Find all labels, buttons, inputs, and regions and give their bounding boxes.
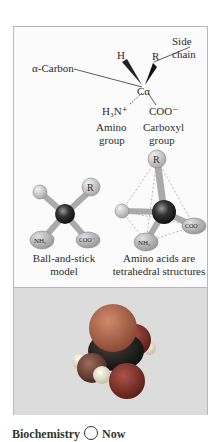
ball-stick-caption: Ball-and-stick model	[24, 252, 104, 278]
amino-group-label-1: Amino	[96, 121, 127, 133]
carbon-atom	[55, 204, 75, 224]
h-wedge	[122, 59, 142, 85]
space-filling-model	[14, 288, 207, 414]
alpha-carbon-label: α-Carbon	[32, 62, 74, 74]
h-atom	[33, 185, 47, 199]
h-label: H	[117, 49, 125, 61]
tetrahedral-model: R COO⁻ NH₃	[115, 150, 206, 251]
r-label: R	[152, 50, 160, 62]
tetra-h-atom	[115, 204, 129, 218]
oxygen-atom-front	[109, 363, 145, 399]
r-atom-label: R	[87, 182, 94, 193]
tetra-r-label: R	[153, 154, 160, 165]
tetra-carbon-atom	[152, 200, 176, 224]
figure-frame: α-Carbon H R Cα Side chain H₃N⁺ COO⁻ Ami…	[13, 26, 208, 415]
structural-formula: α-Carbon H R Cα Side chain H₃N⁺ COO⁻ Ami…	[14, 27, 209, 147]
diagram-panel: α-Carbon H R Cα Side chain H₃N⁺ COO⁻ Ami…	[14, 27, 207, 287]
tetrahedral-caption: Amino acids are tetrahedral structures	[109, 252, 209, 278]
nh3-label: NH₃	[34, 237, 47, 245]
r-wedge	[145, 63, 157, 85]
footer-brand: Biochemistry Now	[12, 426, 125, 442]
tetra-coo-label: COO⁻	[185, 223, 201, 229]
amino-formula: H₃N⁺	[102, 105, 128, 117]
carboxyl-formula: COO⁻	[149, 105, 178, 117]
side-chain-atom	[89, 304, 137, 352]
models-illustration: R NH₃ COO⁻	[14, 142, 209, 262]
ball-and-stick-model: R NH₃ COO⁻	[30, 178, 100, 249]
now-logo-icon	[84, 426, 98, 440]
coo-label: COO⁻	[79, 237, 95, 243]
tetra-nh3-label: NH₃	[138, 239, 151, 247]
side-chain-label-1: Side	[172, 35, 192, 47]
carboxyl-group-label-1: Carboxyl	[143, 121, 184, 133]
alpha-carbon-center: Cα	[137, 85, 150, 97]
h-atom-front	[93, 366, 111, 384]
side-chain-label-2: chain	[172, 48, 196, 60]
space-filling-panel	[14, 287, 207, 415]
